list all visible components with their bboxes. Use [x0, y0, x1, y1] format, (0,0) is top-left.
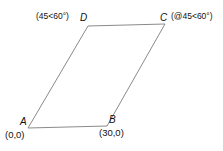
angle-annotation-c: (@45<60°) — [171, 12, 213, 21]
vertex-label-a: A — [20, 117, 27, 127]
vertex-label-d: D — [80, 13, 87, 23]
coordinate-label-b: (30,0) — [99, 128, 124, 138]
parallelogram-diagram: (45<60°) D C (@45<60°) A (0,0) B (30,0) — [0, 0, 223, 151]
vertex-label-c: C — [160, 13, 167, 23]
vertex-label-b: B — [109, 115, 116, 125]
coordinate-label-a: (0,0) — [5, 130, 25, 140]
angle-annotation-d: (45<60°) — [36, 12, 69, 21]
parallelogram-outline — [28, 24, 165, 128]
